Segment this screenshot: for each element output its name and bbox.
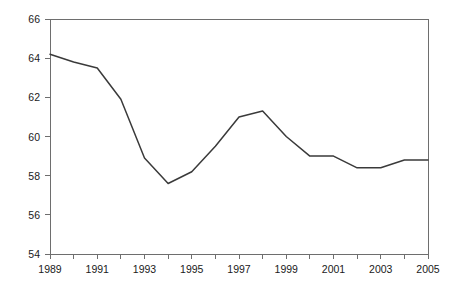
x-tick-label: 2001 bbox=[322, 263, 346, 275]
chart-canvas: 54565860626466 1989199119931995199719992… bbox=[0, 0, 451, 290]
y-tick-label: 62 bbox=[28, 91, 40, 103]
plot-border bbox=[50, 19, 428, 254]
x-tick-label: 1999 bbox=[275, 263, 299, 275]
x-tick-label: 1993 bbox=[133, 263, 157, 275]
y-tick-label: 58 bbox=[28, 170, 40, 182]
x-tick-label: 1995 bbox=[180, 263, 204, 275]
series-line bbox=[50, 54, 428, 183]
x-tick-label: 1997 bbox=[227, 263, 251, 275]
x-tick-label: 2003 bbox=[369, 263, 393, 275]
x-tick-label: 1989 bbox=[38, 263, 62, 275]
line-chart: 54565860626466 1989199119931995199719992… bbox=[0, 0, 451, 290]
y-tick-label: 54 bbox=[28, 248, 40, 260]
x-axis-ticks bbox=[50, 254, 428, 259]
x-axis-labels: 198919911993199519971999200120032005 bbox=[38, 263, 440, 275]
y-tick-label: 66 bbox=[28, 13, 40, 25]
x-tick-label: 2005 bbox=[416, 263, 440, 275]
x-tick-label: 1991 bbox=[86, 263, 110, 275]
y-tick-label: 56 bbox=[28, 209, 40, 221]
plot-frame bbox=[50, 19, 428, 254]
y-tick-label: 60 bbox=[28, 131, 40, 143]
data-series-group bbox=[50, 54, 428, 183]
y-axis-labels: 54565860626466 bbox=[28, 13, 40, 260]
y-tick-label: 64 bbox=[28, 52, 40, 64]
